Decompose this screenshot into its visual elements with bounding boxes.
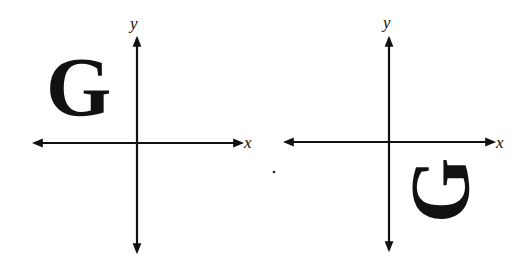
left-coordinate-plane: x y G	[34, 14, 252, 252]
stray-dot	[273, 171, 276, 174]
left-x-label: x	[243, 133, 252, 152]
original-letter-g: G	[46, 41, 111, 134]
rotated-letter-g: G	[394, 158, 487, 223]
right-x-label: x	[495, 133, 504, 152]
left-y-label: y	[128, 14, 138, 33]
right-y-label: y	[381, 13, 391, 32]
right-coordinate-plane: x y G	[285, 13, 504, 250]
diagram-canvas: x y G x y G	[0, 0, 532, 276]
